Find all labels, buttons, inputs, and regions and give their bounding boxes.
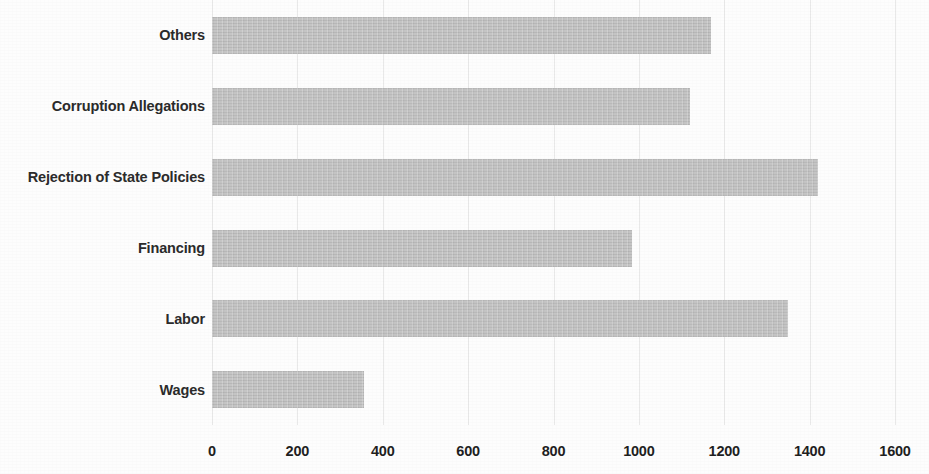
category-label: Wages: [0, 383, 205, 398]
x-tick-label: 0: [208, 443, 216, 459]
bar[interactable]: [212, 230, 632, 267]
bar[interactable]: [212, 88, 690, 125]
x-tick-label: 600: [456, 443, 480, 459]
bar[interactable]: [212, 371, 364, 408]
bars-layer: [212, 0, 895, 425]
bar[interactable]: [212, 17, 711, 54]
x-tick-label: 1000: [623, 443, 654, 459]
gridline: [895, 0, 896, 425]
value-axis-labels: 02004006008001000120014001600: [212, 425, 895, 474]
x-tick-label: 400: [371, 443, 395, 459]
category-label: Rejection of State Policies: [0, 170, 205, 185]
bar-band: [212, 213, 895, 284]
bar-band: [212, 142, 895, 213]
x-tick-label: 800: [542, 443, 566, 459]
category-label: Others: [0, 28, 205, 43]
bar-chart: OthersCorruption AllegationsRejection of…: [0, 0, 929, 474]
category-axis-labels: OthersCorruption AllegationsRejection of…: [0, 0, 205, 425]
x-tick-label: 1600: [879, 443, 910, 459]
bar[interactable]: [212, 300, 788, 337]
bar-band: [212, 0, 895, 71]
category-label: Labor: [0, 312, 205, 327]
plot-area: [212, 0, 895, 425]
x-tick-label: 200: [286, 443, 310, 459]
x-tick-label: 1200: [709, 443, 740, 459]
bar-band: [212, 71, 895, 142]
category-label: Corruption Allegations: [0, 99, 205, 114]
bar-band: [212, 283, 895, 354]
bar[interactable]: [212, 159, 818, 196]
bar-band: [212, 354, 895, 425]
category-label: Financing: [0, 241, 205, 256]
x-tick-label: 1400: [794, 443, 825, 459]
